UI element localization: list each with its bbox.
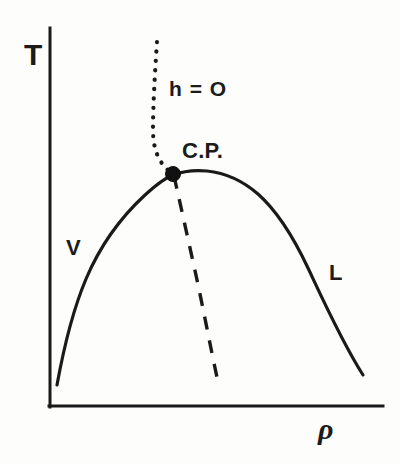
y-axis-label: T [24, 40, 43, 70]
critical-point-label: C.P. [182, 140, 223, 162]
x-axis-label: ρ [318, 414, 333, 444]
coexistence-curve [57, 170, 363, 385]
critical-point-marker [166, 167, 181, 182]
h-zero-label: h = O [169, 78, 227, 99]
diameter-dashed-line [174, 176, 218, 382]
diagram-canvas [0, 0, 400, 464]
phase-diagram-figure: T ρ h = O C.P. V L [0, 0, 400, 464]
vapor-region-label: V [66, 237, 81, 259]
h-zero-dotted-line [153, 42, 173, 174]
liquid-region-label: L [329, 262, 342, 284]
